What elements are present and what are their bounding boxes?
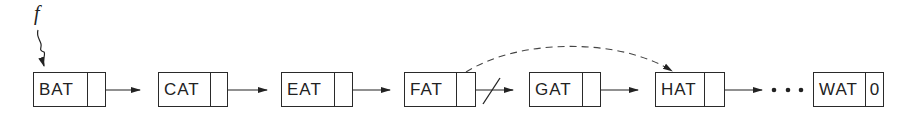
node-link xyxy=(87,73,105,106)
linked-list-diagram: f BAT CAT EAT FAT GAT HAT WAT 0 xyxy=(0,0,908,126)
node-link xyxy=(456,73,475,106)
list-node: EAT xyxy=(281,72,353,107)
list-node: BAT xyxy=(33,72,106,107)
node-data: FAT xyxy=(405,73,456,106)
new-link-dashed-arrow xyxy=(466,46,672,72)
list-node: FAT xyxy=(404,72,476,107)
head-pointer-label: f xyxy=(34,2,40,25)
node-link xyxy=(334,73,352,106)
ellipsis-dot xyxy=(772,88,777,93)
node-link-null: 0 xyxy=(865,73,883,106)
node-data: BAT xyxy=(34,73,87,106)
node-data: CAT xyxy=(159,73,210,106)
strike-mark xyxy=(483,78,500,104)
list-node: HAT xyxy=(655,72,725,107)
node-data: EAT xyxy=(282,73,334,106)
ellipsis-dot xyxy=(799,88,804,93)
node-data: WAT xyxy=(814,73,865,106)
list-node: CAT xyxy=(158,72,228,107)
node-link xyxy=(210,73,227,106)
head-pointer-arrow xyxy=(37,30,44,66)
node-link xyxy=(582,73,600,106)
connectors xyxy=(0,0,908,126)
node-data: HAT xyxy=(656,73,704,106)
list-node: WAT 0 xyxy=(813,72,884,107)
ellipsis-dot xyxy=(786,88,791,93)
list-node: GAT xyxy=(529,72,601,107)
node-data: GAT xyxy=(530,73,582,106)
node-link xyxy=(704,73,724,106)
